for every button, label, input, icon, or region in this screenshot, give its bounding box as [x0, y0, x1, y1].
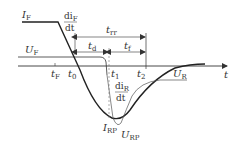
recovery-diagram: t IF UF diF dt trr td tf tF t0 t1 t2 diR…	[0, 0, 238, 147]
label-URP: URP	[121, 129, 140, 142]
label-t0: t0	[68, 68, 77, 81]
label-IF: IF	[21, 9, 31, 22]
label-diR-den: dt	[116, 93, 126, 103]
label-IRP: IRP	[102, 122, 117, 135]
label-diF-den: dt	[65, 23, 75, 33]
axis-label-t: t	[224, 69, 229, 80]
label-diR-num: diR	[115, 81, 130, 93]
label-diF-num: diF	[64, 11, 78, 23]
label-tf: tf	[124, 40, 132, 53]
label-t2: t2	[137, 68, 146, 81]
label-t1: t1	[111, 68, 120, 81]
label-trr: trr	[106, 24, 117, 37]
label-UF: UF	[25, 44, 38, 57]
label-tF: tF	[51, 68, 60, 81]
label-UR: UR	[173, 68, 187, 81]
label-td: td	[88, 40, 97, 53]
